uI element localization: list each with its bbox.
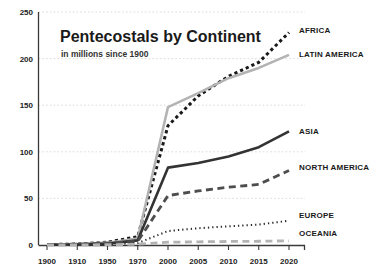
chart-title: Pentecostals by Continent xyxy=(60,28,262,45)
x-axis-tick-label: 1970 xyxy=(129,257,147,266)
line-chart: 050100150200250 190019101950197020002005… xyxy=(0,0,378,277)
x-axis-tick-label: 2015 xyxy=(250,257,268,266)
series-label-oceania: OCEANIA xyxy=(299,229,337,238)
chart-subtitle: in millions since 1900 xyxy=(61,49,149,59)
y-axis-tick-label: 50 xyxy=(24,194,33,203)
x-axis-tick-label: 2000 xyxy=(159,257,177,266)
x-axis-tick-label: 1910 xyxy=(68,257,86,266)
y-axis-tick-label: 150 xyxy=(20,101,34,110)
series-label-latin-america: LATIN AMERICA xyxy=(299,50,364,59)
x-axis-tick-labels: 190019101950197020002005201020152020 xyxy=(38,257,298,266)
x-axis-tick-label: 2020 xyxy=(280,257,298,266)
series-label-asia: ASIA xyxy=(299,127,319,136)
series-label-north-america: NORTH AMERICA xyxy=(299,163,369,172)
chart-container: 050100150200250 190019101950197020002005… xyxy=(0,0,378,277)
series-label-europe: EUROPE xyxy=(299,211,334,220)
x-axis-tick-label: 1900 xyxy=(38,257,56,266)
x-axis-tick-label: 2010 xyxy=(220,257,238,266)
series-label-africa: AFRICA xyxy=(299,26,330,35)
x-axis-tick-label: 1950 xyxy=(99,257,117,266)
y-axis-tick-label: 0 xyxy=(29,241,34,250)
y-axis-tick-label: 200 xyxy=(20,55,34,64)
y-axis-tick-label: 100 xyxy=(20,148,34,157)
x-axis-tick-label: 2005 xyxy=(189,257,207,266)
y-axis-tick-label: 250 xyxy=(20,8,34,17)
